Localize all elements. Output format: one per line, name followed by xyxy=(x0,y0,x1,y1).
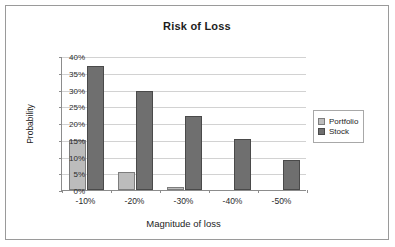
bar-stock--50[interactable] xyxy=(283,160,300,190)
x-tick-mark xyxy=(209,190,210,193)
y-axis-title: Probability xyxy=(24,57,36,191)
bar-stock--30[interactable] xyxy=(185,116,202,190)
y-tick-label: 25% xyxy=(45,103,85,112)
y-tick-label: 30% xyxy=(45,86,85,95)
bar-portfolio--30[interactable] xyxy=(167,187,184,190)
bar-stock--40[interactable] xyxy=(234,139,251,190)
x-tick-label: -50% xyxy=(272,196,292,206)
x-tick-label: -40% xyxy=(223,196,243,206)
legend-swatch-icon-stock xyxy=(318,128,325,135)
x-tick-mark xyxy=(307,190,308,193)
bar-stock--10[interactable] xyxy=(87,66,104,190)
x-tick-mark xyxy=(160,190,161,193)
x-tick-label: -30% xyxy=(174,196,194,206)
legend-label-stock: Stock xyxy=(329,127,349,136)
y-tick-label: 0% xyxy=(45,187,85,196)
plot-wrapper xyxy=(61,57,306,191)
x-tick-mark xyxy=(258,190,259,193)
y-tick-label: 40% xyxy=(45,53,85,62)
bar-portfolio--10[interactable] xyxy=(69,140,86,190)
x-tick-mark xyxy=(111,190,112,193)
chart-legend: Portfolio Stock xyxy=(313,110,364,143)
legend-item-portfolio[interactable]: Portfolio xyxy=(318,117,358,126)
x-tick-label: -10% xyxy=(76,196,96,206)
bar-portfolio--20[interactable] xyxy=(118,172,135,190)
legend-label-portfolio: Portfolio xyxy=(329,117,358,126)
y-tick-label: 10% xyxy=(45,153,85,162)
x-tick-label: -20% xyxy=(125,196,145,206)
bar-stock--20[interactable] xyxy=(136,91,153,190)
plot-area xyxy=(61,57,306,191)
chart-title: Risk of Loss xyxy=(6,20,388,32)
legend-swatch-icon-portfolio xyxy=(318,118,325,125)
x-axis-title: Magnitude of loss xyxy=(61,218,306,229)
y-gridline xyxy=(62,57,306,58)
y-tick-label: 15% xyxy=(45,136,85,145)
y-tick-label: 20% xyxy=(45,120,85,129)
chart-frame: Risk of Loss Probability Magnitude of lo… xyxy=(5,5,389,240)
y-tick-label: 5% xyxy=(45,170,85,179)
y-tick-label: 35% xyxy=(45,69,85,78)
legend-item-stock[interactable]: Stock xyxy=(318,127,358,136)
y-axis-title-label: Probability xyxy=(25,104,35,144)
